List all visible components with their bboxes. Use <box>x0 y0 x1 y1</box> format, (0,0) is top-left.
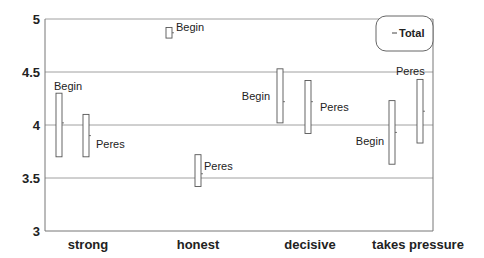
range-rect <box>83 114 89 156</box>
range-bar-begin: Begin <box>54 80 82 157</box>
range-bar-begin: Begin <box>356 101 397 165</box>
range-rect <box>166 27 172 38</box>
series-label: Begin <box>242 90 270 102</box>
chart-canvas: 33.544.55 stronghonestdecisivetakes pres… <box>0 0 484 258</box>
range-rect <box>277 69 283 123</box>
range-chart: 33.544.55 stronghonestdecisivetakes pres… <box>0 0 484 258</box>
legend-label-total: Total <box>399 27 424 39</box>
range-rect <box>195 155 201 187</box>
x-axis: stronghonestdecisivetakes pressure <box>45 19 464 252</box>
series-label: Begin <box>176 21 204 33</box>
range-rect <box>305 80 311 133</box>
grid-lines <box>45 19 433 178</box>
range-bar-peres: Peres <box>305 80 349 133</box>
y-tick-label: 4.5 <box>22 65 40 80</box>
range-bars: BeginBeginBeginBeginPeresPeresPeresPeres <box>54 21 425 186</box>
x-category-label: honest <box>177 237 220 252</box>
y-tick-label: 4 <box>33 118 41 133</box>
range-bar-peres: Peres <box>83 114 125 156</box>
y-tick-label: 3 <box>33 224 40 239</box>
range-rect <box>417 79 423 143</box>
range-bar-peres: Peres <box>195 155 233 187</box>
range-bar-begin: Begin <box>242 69 285 123</box>
range-rect <box>56 93 62 157</box>
y-tick-label: 3.5 <box>22 171 40 186</box>
x-category-label: takes pressure <box>372 237 464 252</box>
legend: Total <box>376 16 433 51</box>
range-rect <box>389 101 395 165</box>
series-label: Peres <box>320 101 349 113</box>
x-category-label: strong <box>68 237 109 252</box>
series-label: Begin <box>54 80 82 92</box>
series-label: Peres <box>396 65 425 77</box>
series-label: Peres <box>204 160 233 172</box>
x-category-label: decisive <box>284 237 335 252</box>
series-label: Begin <box>356 135 384 147</box>
range-bar-begin: Begin <box>166 21 204 38</box>
series-label: Peres <box>96 138 125 150</box>
y-tick-label: 5 <box>33 12 40 27</box>
y-axis: 33.544.55 <box>22 12 45 239</box>
range-bar-peres: Peres <box>396 65 425 143</box>
